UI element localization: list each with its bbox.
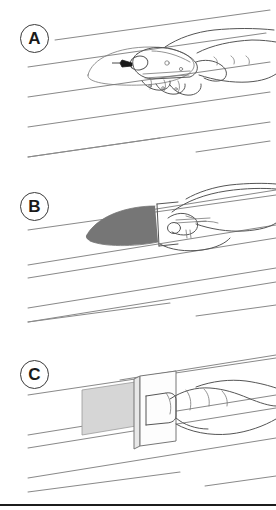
figure-artwork: .sid { fill: none; stroke: #8a8a8a; stro… [0,0,276,510]
panel-label-a: A [20,24,49,53]
panel-b-patch-area [86,202,178,246]
panel-c-patch-rectangle [82,381,142,435]
panel-a-cut-oval [88,47,194,85]
panel-a-hand [142,29,276,96]
panel-label-b: B [20,192,49,221]
panel-c-replacement-panel [134,371,176,449]
instruction-figure: .sid { fill: none; stroke: #8a8a8a; stro… [0,0,276,510]
panel-label-c: C [20,360,49,389]
panel-a-siding-lines [28,10,270,157]
